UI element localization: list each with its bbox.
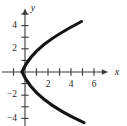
x-axis-label: x [114, 66, 120, 77]
y-tick-label-4: 4 [12, 20, 17, 30]
y-tick-label-2: 2 [12, 43, 17, 53]
x-axis-arrow-icon [102, 69, 108, 74]
y-tick-label-neg2: −2 [7, 89, 17, 99]
x-tick-label-4: 4 [69, 79, 74, 89]
x-tick-label-6: 6 [92, 79, 97, 89]
parabola-figure: 2 4 6 4 2 −2 −4 y x [0, 0, 127, 126]
y-axis-label: y [30, 2, 36, 13]
x-tick-label-2: 2 [46, 79, 51, 89]
plot-canvas: 2 4 6 4 2 −2 −4 y x [0, 0, 127, 126]
y-tick-label-neg4: −4 [7, 113, 17, 123]
